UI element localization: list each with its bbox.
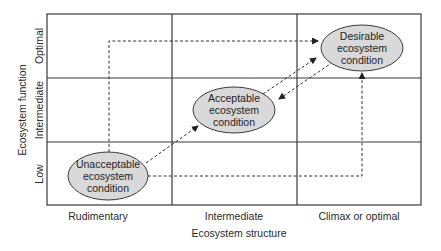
x-tick-climax: Climax or optimal [318, 210, 399, 222]
arrow-acceptable-to-desirable [263, 58, 316, 94]
node-line: Desirable [337, 30, 387, 42]
node-acceptable-label: Acceptable ecosystem condition [208, 92, 260, 128]
node-desirable-label: Desirable ecosystem condition [337, 30, 387, 66]
node-line: ecosystem [337, 42, 387, 54]
y-tick-low: Low [33, 164, 45, 183]
x-axis-title: Ecosystem structure [191, 227, 286, 239]
y-tick-optimal: Optimal [33, 28, 45, 64]
ecosystem-condition-diagram: Unacceptable ecosystem condition Accepta… [0, 0, 441, 251]
y-axis-title: Ecosystem function [16, 64, 28, 155]
x-tick-rudimentary: Rudimentary [68, 210, 128, 222]
node-line: ecosystem [208, 104, 260, 116]
x-tick-intermediate: Intermediate [205, 210, 263, 222]
y-tick-intermediate: Intermediate [33, 81, 45, 139]
node-line: condition [76, 182, 140, 194]
node-line: Unacceptable [76, 158, 140, 170]
node-unacceptable-label: Unacceptable ecosystem condition [76, 158, 140, 194]
node-line: condition [337, 54, 387, 66]
node-line: Acceptable [208, 92, 260, 104]
node-line: ecosystem [76, 170, 140, 182]
arrow-desirable-to-acceptable [279, 62, 333, 99]
node-line: condition [208, 116, 260, 128]
